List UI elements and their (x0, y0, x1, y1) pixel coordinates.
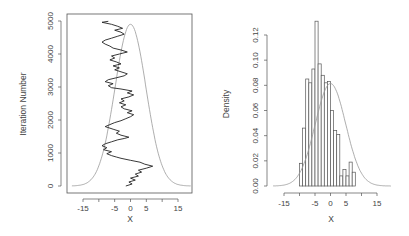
x-axis: -15-50515 (278, 193, 382, 208)
histogram-bar (334, 131, 337, 186)
y-tick-label: 0.06 (251, 102, 260, 118)
x-tick-label: -5 (311, 199, 319, 208)
y-tick-label: 5000 (46, 12, 55, 30)
histogram-bar (300, 163, 303, 186)
histogram-bar (309, 83, 312, 186)
x-tick-label: -5 (111, 204, 119, 213)
normal-density-curve (72, 24, 191, 186)
y-tick-label: 0.12 (251, 27, 260, 43)
y-tick-label: 0.00 (251, 178, 260, 194)
histogram-bar (303, 128, 306, 186)
x-axis-title: X (328, 214, 334, 224)
histogram-bar (343, 170, 346, 186)
y-tick-label: 0.04 (251, 127, 260, 143)
histogram-bar (340, 176, 343, 186)
histogram-bar (352, 172, 355, 186)
histogram-bar (315, 21, 318, 186)
x-tick-label: 0 (128, 204, 133, 213)
mcmc-trace-line (102, 21, 153, 186)
y-tick-label: 0.02 (251, 153, 260, 169)
y-tick-label: 2000 (46, 111, 55, 129)
x-axis-title: X (127, 214, 133, 224)
histogram-bar (331, 111, 334, 187)
y-tick-label: 0.10 (251, 52, 260, 68)
x-tick-label: 15 (373, 199, 382, 208)
x-tick-label: 15 (174, 204, 183, 213)
trace-plot-panel: -15-50515 010002000300040005000 X Iterat… (18, 12, 192, 224)
x-axis: -15-50515 (77, 199, 183, 213)
x-tick-label: 0 (328, 199, 333, 208)
x-tick-label: -15 (278, 199, 290, 208)
histogram-bar (324, 83, 327, 186)
y-axis: 010002000300040005000 (46, 12, 61, 189)
histogram-panel: -15-50515 0.000.020.040.060.080.100.12 X… (221, 21, 391, 224)
histogram-bars (300, 21, 356, 186)
trace-plot-box (67, 14, 192, 193)
x-tick-label: 5 (344, 199, 349, 208)
histogram-bar (346, 176, 349, 186)
y-axis-title: Density (221, 89, 231, 118)
y-tick-label: 0.08 (251, 77, 260, 93)
y-axis: 0.000.020.040.060.080.100.12 (251, 27, 267, 194)
histogram-bar (327, 82, 330, 186)
y-tick-label: 1000 (46, 144, 55, 162)
histogram-bar (318, 64, 321, 186)
histogram-bar (349, 162, 352, 186)
y-tick-label: 3000 (46, 78, 55, 96)
histogram-bar (306, 79, 309, 186)
y-tick-label: 4000 (46, 45, 55, 63)
x-tick-label: -15 (77, 204, 89, 213)
x-tick-label: 5 (144, 204, 149, 213)
figure: -15-50515 010002000300040005000 X Iterat… (0, 0, 409, 236)
y-axis-title: Iteration Number (18, 72, 28, 135)
histogram-bar (337, 134, 340, 186)
y-tick-label: 0 (46, 183, 55, 188)
